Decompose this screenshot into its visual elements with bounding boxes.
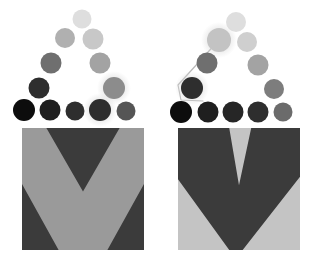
chevron-square-group[interactable] <box>178 128 300 250</box>
node-circle[interactable] <box>13 99 35 121</box>
node-circle[interactable] <box>170 101 192 123</box>
node-circle[interactable] <box>237 32 257 52</box>
figure-root <box>0 0 314 255</box>
node-circle[interactable] <box>55 28 75 48</box>
node-circle[interactable] <box>117 102 136 121</box>
node-R-r4-c2[interactable] <box>223 102 244 123</box>
node-R-r4-c1[interactable] <box>198 102 219 123</box>
node-R-r1-c1[interactable] <box>237 32 257 52</box>
node-circle[interactable] <box>90 53 111 74</box>
node-L-r4-c0[interactable] <box>13 99 35 121</box>
node-circle[interactable] <box>66 102 85 121</box>
node-circle[interactable] <box>73 10 92 29</box>
node-L-r4-c3[interactable] <box>83 93 117 127</box>
node-circle[interactable] <box>197 53 218 74</box>
chevron-square-group[interactable] <box>22 128 144 250</box>
node-circle[interactable] <box>29 78 50 99</box>
node-R-r4-c3[interactable] <box>248 102 269 123</box>
node-circle[interactable] <box>83 29 104 50</box>
node-circle[interactable] <box>223 102 244 123</box>
node-circle[interactable] <box>248 55 269 76</box>
right-panel-canvas <box>157 0 314 255</box>
node-R-r2-c0[interactable] <box>197 53 218 74</box>
left-panel[interactable] <box>0 0 157 255</box>
node-R-r3-c3[interactable] <box>264 79 284 99</box>
node-circle[interactable] <box>248 102 269 123</box>
node-L-r4-c2[interactable] <box>66 102 85 121</box>
node-circle[interactable] <box>207 28 231 52</box>
node-L-r2-c2[interactable] <box>90 53 111 74</box>
node-circle[interactable] <box>181 77 203 99</box>
node-L-r2-c0[interactable] <box>41 53 62 74</box>
node-circle[interactable] <box>274 103 293 122</box>
node-R-r4-c4[interactable] <box>274 103 293 122</box>
node-L-r3-c0[interactable] <box>29 78 50 99</box>
node-circle[interactable] <box>40 100 61 121</box>
node-L-r4-c4[interactable] <box>117 102 136 121</box>
node-circle[interactable] <box>89 99 111 121</box>
node-L-r0-c0[interactable] <box>73 10 92 29</box>
node-R-r3-c0[interactable] <box>175 71 209 105</box>
node-R-r4-c0[interactable] <box>170 101 192 123</box>
node-circle[interactable] <box>198 102 219 123</box>
left-panel-canvas <box>0 0 157 255</box>
node-circle[interactable] <box>264 79 284 99</box>
node-circle[interactable] <box>41 53 62 74</box>
node-L-r1-c0[interactable] <box>55 28 75 48</box>
node-R-r2-c2[interactable] <box>248 55 269 76</box>
node-L-r1-c1[interactable] <box>83 29 104 50</box>
node-L-r4-c1[interactable] <box>40 100 61 121</box>
right-panel[interactable] <box>157 0 314 255</box>
